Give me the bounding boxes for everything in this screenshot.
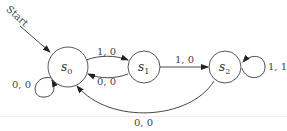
transition-label: 1, 1 [268, 61, 287, 72]
transition-s1-s2: 1, 0 [160, 54, 208, 67]
transition-label: 1, 0 [97, 46, 116, 57]
transition-s2-s0: 0, 0 [77, 81, 214, 128]
transition-s0-s0: 0, 0 [12, 78, 54, 98]
transition-label: 1, 0 [175, 54, 194, 65]
transition-s1-s0: 0, 0 [88, 74, 128, 87]
state-s2: s2 [209, 51, 241, 83]
state-s0: s0 [48, 47, 88, 87]
transition-s0-s1: 1, 0 [86, 46, 128, 60]
transition-label: 0, 0 [134, 117, 153, 128]
state-diagram: Start 0, 0 1, 0 0, 0 1, 0 1, 1 0, 0 s0 s… [0, 0, 287, 131]
transition-s2-s2: 1, 1 [242, 56, 287, 77]
state-s1: s1 [128, 51, 160, 83]
start-label: Start [4, 3, 30, 28]
start-arrow: Start [4, 3, 50, 52]
transition-label: 0, 0 [97, 76, 116, 87]
transition-label: 0, 0 [12, 79, 31, 90]
